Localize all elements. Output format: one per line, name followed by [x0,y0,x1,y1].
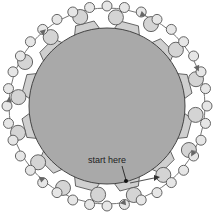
start-dot [124,179,128,183]
small-bead [202,101,212,111]
small-bead [68,195,78,205]
small-bead [4,118,14,128]
large-bead [188,107,203,122]
small-bead [25,165,35,175]
small-bead [52,188,62,198]
small-bead [8,135,18,145]
small-bead [179,37,189,47]
small-bead [166,178,176,188]
small-bead [119,3,129,13]
small-bead [85,200,95,210]
small-bead [4,84,14,94]
small-bead [8,67,18,77]
small-bead [179,165,189,175]
small-bead [201,118,211,128]
small-bead [85,3,95,13]
small-bead [52,14,62,24]
small-bead [196,135,206,145]
small-bead [152,14,162,24]
small-bead [201,84,211,94]
small-bead [15,151,25,161]
small-bead [166,24,176,34]
ring-diagram [0,0,218,222]
small-bead [102,1,112,11]
small-bead [152,188,162,198]
large-bead [108,10,123,25]
large-bead [11,90,26,105]
small-bead [189,51,199,61]
large-bead [91,187,106,202]
small-bead [2,101,12,111]
small-bead [136,195,146,205]
small-bead [15,51,25,61]
small-bead [25,37,35,47]
start-label: start here [88,155,126,165]
small-bead [68,7,78,17]
small-bead [102,201,112,211]
